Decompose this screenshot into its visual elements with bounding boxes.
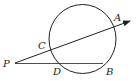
geometry-diagram: P C A D B xyxy=(0,0,137,81)
label-B: B xyxy=(105,66,113,77)
label-A: A xyxy=(113,12,121,23)
label-P: P xyxy=(2,58,10,69)
secant-ray-PA xyxy=(15,21,130,63)
label-D: D xyxy=(52,66,61,77)
label-C: C xyxy=(38,40,46,51)
